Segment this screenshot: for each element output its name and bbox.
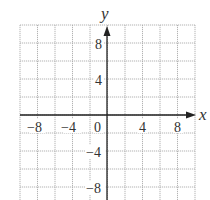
y-tick-label: 8 bbox=[95, 37, 102, 52]
y-tick-label: −4 bbox=[86, 145, 101, 160]
x-axis bbox=[20, 112, 196, 119]
x-tick-label: 8 bbox=[174, 120, 181, 135]
x-axis-arrow-icon bbox=[186, 112, 196, 119]
x-axis-label: x bbox=[198, 105, 207, 124]
y-tick-label: 4 bbox=[95, 73, 102, 88]
x-tick-label: −4 bbox=[61, 120, 76, 135]
x-tick-label: 0 bbox=[94, 120, 101, 135]
x-tick-label: −8 bbox=[27, 120, 42, 135]
y-axis bbox=[104, 26, 111, 200]
y-axis-label: y bbox=[99, 4, 109, 23]
y-tick-label: −8 bbox=[86, 181, 101, 196]
y-axis-arrow-icon bbox=[104, 26, 111, 36]
coordinate-plane: x y −8 −4 0 4 8 8 4 −4 −8 bbox=[0, 0, 210, 200]
x-tick-label: 4 bbox=[139, 120, 146, 135]
